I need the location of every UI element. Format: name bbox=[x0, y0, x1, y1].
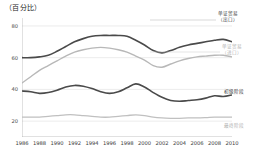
series-line-0 bbox=[22, 35, 232, 57]
y-axis-tick-label: 20 bbox=[2, 118, 18, 124]
chart-container: （百分比） 80604020 1986198819901992199419961… bbox=[0, 0, 256, 157]
series-label-line1: 最终阶段 bbox=[224, 123, 244, 129]
chart-svg bbox=[22, 18, 232, 137]
series-label-line1: 单证贸易 bbox=[222, 44, 242, 50]
series-lines bbox=[22, 35, 232, 118]
series-label-line2: （进口） bbox=[222, 50, 242, 56]
y-axis-tick-label: 60 bbox=[2, 55, 18, 61]
y-axis-tick-label: 40 bbox=[2, 86, 18, 92]
series-label-line1: 初级阶段 bbox=[224, 89, 244, 95]
series-label-line1: 单证贸易 bbox=[218, 11, 238, 17]
series-label-2: 初级阶段 bbox=[224, 89, 244, 95]
series-label-0: 单证贸易（出口） bbox=[218, 11, 238, 22]
series-line-3 bbox=[22, 115, 232, 119]
series-line-2 bbox=[22, 84, 232, 101]
y-axis-tick-label: 80 bbox=[2, 23, 18, 29]
x-axis-tick-label: 2010 bbox=[221, 140, 243, 146]
chart-axis-unit-title: （百分比） bbox=[5, 2, 42, 12]
series-label-1: 单证贸易（进口） bbox=[222, 44, 242, 55]
series-label-3: 最终阶段 bbox=[224, 123, 244, 129]
gridlines bbox=[22, 26, 232, 121]
series-label-line2: （出口） bbox=[218, 17, 238, 23]
plot-area bbox=[22, 18, 232, 137]
